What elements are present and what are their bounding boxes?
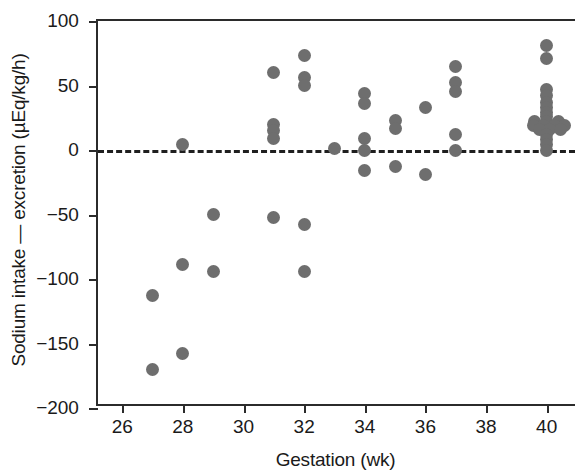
data-point [540,52,553,65]
data-point [449,128,462,141]
data-point [328,142,341,155]
x-tick-label-30: 30 [233,416,254,438]
y-tick-50 [89,86,98,88]
data-point [540,144,553,157]
data-point [298,265,311,278]
x-tick-label-38: 38 [475,416,496,438]
data-point [267,132,280,145]
y-tick--150 [89,344,98,346]
x-tick-32 [304,404,306,413]
x-tick-40 [547,404,549,413]
y-tick--50 [89,215,98,217]
scatter-plot-figure: Sodium intake — excretion (µEq/kg/h) Ges… [0,0,582,475]
x-tick-label-28: 28 [172,416,193,438]
data-point [207,265,220,278]
y-axis-title: Sodium intake — excretion (µEq/kg/h) [2,0,36,420]
data-point [389,160,402,173]
y-tick--100 [89,279,98,281]
data-point [267,211,280,224]
data-point [389,122,402,135]
data-point [176,347,189,360]
x-tick-label-40: 40 [536,416,557,438]
data-point [419,168,432,181]
x-tick-26 [122,404,124,413]
data-point [449,85,462,98]
y-tick-0 [89,150,98,152]
y-tick-label--100: −100 [36,268,79,290]
y-tick-100 [89,21,98,23]
data-point [146,289,159,302]
x-tick-30 [244,404,246,413]
x-tick-34 [365,404,367,413]
data-point [298,218,311,231]
y-tick-label--50: −50 [47,204,79,226]
x-tick-36 [425,404,427,413]
data-point [298,79,311,92]
data-point [267,66,280,79]
y-tick-label-0: 0 [68,139,79,161]
data-point [358,132,371,145]
data-point [176,258,189,271]
x-tick-label-26: 26 [112,416,133,438]
y-tick-label-50: 50 [58,75,79,97]
x-axis-title: Gestation (wk) [96,449,575,471]
y-tick-label-100: 100 [47,10,79,32]
data-point [358,144,371,157]
data-point [146,363,159,376]
y-tick-label--200: −200 [36,397,79,419]
y-tick--200 [89,408,98,410]
data-point [298,49,311,62]
data-point [419,101,432,114]
x-tick-38 [486,404,488,413]
data-point [554,123,567,136]
plot-area: 100500−50−100−150−200 2628303234363840 [96,19,575,406]
data-point [540,39,553,52]
x-tick-28 [183,404,185,413]
data-point [449,144,462,157]
data-point [358,164,371,177]
data-point [207,208,220,221]
x-tick-label-32: 32 [294,416,315,438]
y-tick-label--150: −150 [36,333,79,355]
x-tick-label-36: 36 [415,416,436,438]
data-point [449,60,462,73]
data-point [358,97,371,110]
x-tick-label-34: 34 [354,416,375,438]
